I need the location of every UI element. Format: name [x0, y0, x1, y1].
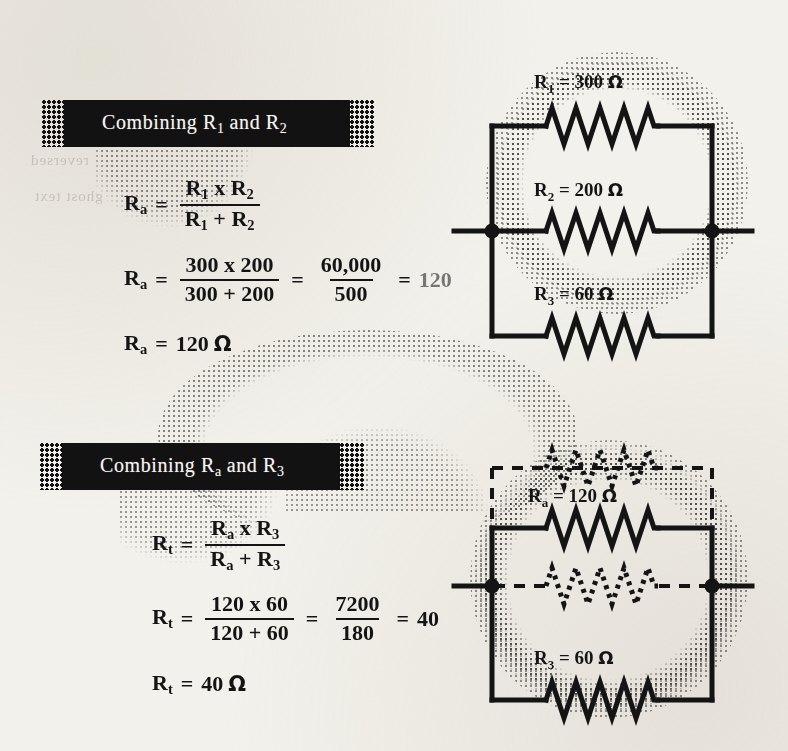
- ohm-symbol: Ω: [228, 672, 246, 696]
- fraction-numerator: R1 x R2: [180, 176, 258, 204]
- fraction-numerator: Ra x R3: [206, 516, 284, 544]
- fraction-numerator: 300 x 200: [180, 253, 278, 279]
- fraction-product-over-sum: 300 x 200 300 + 200: [180, 253, 280, 306]
- section-2-banner: Combining Ra and R3: [62, 443, 340, 490]
- resistor-r3-zigzag: [546, 318, 658, 354]
- eq-equals-3: =: [396, 606, 409, 632]
- label-r3: R3 = 60 Ω: [534, 647, 614, 672]
- fraction-denominator: 300 + 200: [180, 279, 280, 307]
- equation-result-value: 120: [176, 331, 209, 357]
- eq-equals-2: =: [306, 606, 319, 632]
- resistor-r3-zigzag: [546, 682, 658, 718]
- terminal-node-right: [705, 579, 720, 594]
- circuit-1-svg: R1 = 300 Ω R2 = 200 Ω R3 = 60 Ω: [440, 48, 788, 358]
- fraction-denominator: 180: [336, 618, 379, 646]
- label-r1: R1 = 300 Ω: [534, 71, 623, 96]
- fraction-denominator: R1 + R2: [180, 204, 260, 234]
- label-r3: R3 = 60 Ω: [534, 283, 614, 308]
- circuit-parallel-reduced: Ra = 120 Ω R3 = 60 Ω: [440, 440, 788, 740]
- fraction-reduced: 60,000 500: [316, 253, 387, 306]
- resistor-r1-zigzag: [546, 108, 658, 144]
- label-r2: R2 = 200 Ω: [534, 179, 623, 204]
- eq-equals-3: =: [398, 267, 411, 293]
- eq-lhs: Ra: [124, 330, 147, 358]
- eq-lhs: Rt: [152, 670, 173, 698]
- equation-rt-result: Rt = 40 Ω: [152, 670, 246, 698]
- eq-equals: =: [181, 606, 194, 632]
- equation-result-value: 40: [417, 606, 439, 632]
- fraction-numerator: 7200: [330, 592, 384, 618]
- eq-equals: =: [155, 331, 168, 357]
- eq-lhs: Rt: [152, 530, 173, 558]
- fraction-denominator: 500: [330, 279, 373, 307]
- eq-lhs: Rt: [152, 604, 173, 632]
- circuit-2-svg: Ra = 120 Ω R3 = 60 Ω: [440, 440, 788, 740]
- fraction-rt-formula: Ra x R3 Ra + R3: [205, 516, 285, 573]
- circuit-parallel-three: R1 = 300 Ω R2 = 200 Ω R3 = 60 Ω: [440, 48, 788, 358]
- fraction-reduced: 7200 180: [330, 592, 384, 645]
- section-2-banner-label: Combining Ra and R3: [62, 454, 284, 480]
- fraction-denominator: 120 + 60: [205, 618, 294, 646]
- equation-ra-result: Ra = 120 Ω: [124, 330, 231, 358]
- equation-result-value: 40: [201, 671, 223, 697]
- banner-ink-right: [340, 100, 374, 147]
- section-1-banner: Combining R1 and R2: [64, 100, 350, 147]
- section-1-banner-label: Combining R1 and R2: [64, 111, 287, 137]
- eq-equals-2: =: [291, 267, 304, 293]
- fraction-numerator: 120 x 60: [206, 592, 293, 618]
- eq-equals: =: [155, 267, 168, 293]
- fraction-denominator: Ra + R3: [205, 544, 285, 574]
- terminal-node-left: [485, 579, 500, 594]
- fraction-numerator: 60,000: [316, 253, 387, 279]
- eq-equals: =: [181, 532, 194, 558]
- ghost-resistor-mid-zigzag: [546, 568, 658, 604]
- resistor-ra-zigzag: [546, 510, 658, 546]
- equation-rt-numeric: Rt = 120 x 60 120 + 60 = 7200 180 = 40: [152, 592, 439, 645]
- terminal-node-left: [485, 224, 500, 239]
- bleedthrough-text-2: ghost text: [34, 188, 103, 205]
- equation-ra-numeric: Ra = 300 x 200 300 + 200 = 60,000 500 = …: [124, 253, 452, 306]
- equation-rt-formula: Rt = Ra x R3 Ra + R3: [152, 516, 289, 573]
- equation-ra-formula: Ra = R1 x R2 R1 + R2: [124, 176, 264, 233]
- worksheet-page: reversed ghost text Combining R1 and R2 …: [0, 0, 788, 751]
- ohm-symbol: Ω: [214, 332, 232, 356]
- eq-equals: =: [155, 192, 168, 218]
- fraction-product-over-sum: 120 x 60 120 + 60: [205, 592, 294, 645]
- equation-result-value: 120: [419, 267, 452, 293]
- resistor-r2-zigzag: [546, 213, 658, 249]
- eq-lhs: Ra: [124, 265, 147, 293]
- label-ra: Ra = 120 Ω: [528, 485, 617, 510]
- eq-lhs: Ra: [124, 190, 147, 218]
- terminal-node-right: [705, 224, 720, 239]
- banner-ink-right: [330, 443, 364, 490]
- fraction-ra-formula: R1 x R2 R1 + R2: [180, 176, 260, 233]
- eq-equals: =: [181, 671, 194, 697]
- bleedthrough-text-1: reversed: [30, 152, 89, 169]
